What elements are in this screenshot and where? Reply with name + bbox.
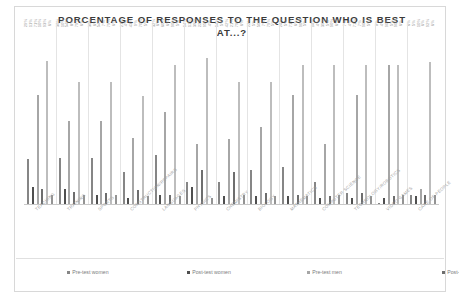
- bar: [287, 196, 289, 204]
- bar-value-label: 6%: [79, 20, 84, 26]
- bar-item: 5%: [177, 24, 182, 204]
- bar: [155, 155, 157, 204]
- bar-value-label: 4%: [207, 20, 212, 26]
- bar: [96, 195, 98, 204]
- plot-area: 29%11%71%10%93%6%30%10%54%8%79%6%30%6%54…: [24, 24, 439, 204]
- group-separator: [247, 24, 248, 205]
- bar-value-label: 5%: [270, 20, 275, 26]
- bar-item: 6%: [113, 24, 118, 204]
- bar: [260, 127, 262, 204]
- bar-value-label: 6%: [111, 20, 116, 26]
- group-separator: [375, 24, 376, 205]
- bar-value-label: 5%: [366, 20, 371, 26]
- bar: [196, 144, 198, 204]
- bar-value-label: 5%: [175, 20, 180, 26]
- bar: [415, 196, 417, 204]
- bar-group: 6%5%10%6%92%6%: [407, 24, 439, 204]
- bar: [356, 95, 358, 204]
- bar: [78, 82, 80, 204]
- bar: [223, 196, 225, 204]
- bar: [302, 65, 304, 204]
- group-separator: [152, 24, 153, 205]
- bar: [68, 121, 70, 204]
- bar-group: 14%5%42%21%79%6%: [216, 24, 248, 204]
- bar-item: 6%: [82, 24, 87, 204]
- bar: [365, 65, 367, 204]
- bar: [159, 195, 161, 204]
- bar: [429, 62, 431, 204]
- legend-item[interactable]: Post-test men: [442, 269, 459, 275]
- bar: [228, 139, 230, 204]
- legend-swatch-icon: [307, 271, 310, 274]
- bar: [191, 187, 193, 204]
- bar-item: 6%: [401, 24, 406, 204]
- bar-group: 29%11%71%10%93%6%: [24, 24, 56, 204]
- legend-swatch-icon: [187, 271, 190, 274]
- bar: [100, 121, 102, 204]
- bar-value-label: 90%: [384, 19, 389, 28]
- bar: [37, 95, 39, 204]
- group-separator: [343, 24, 344, 205]
- bar-group: 21%4%43%9%70%5%: [120, 24, 152, 204]
- legend-label: Post-test men: [447, 269, 459, 275]
- bar: [46, 61, 48, 204]
- bar-group: 14%11%39%22%95%4%: [184, 24, 216, 204]
- bar: [410, 195, 412, 204]
- bar-group: 24%5%71%6%90%5%: [279, 24, 311, 204]
- x-axis-tick-labels: TEACHINGTRAININGSPORTSCONSTRUCTION/REPAI…: [24, 206, 439, 256]
- bar-value-label: 6%: [293, 20, 298, 26]
- bar-item: 6%: [433, 24, 438, 204]
- bar: [123, 172, 125, 204]
- group-separator: [120, 24, 121, 205]
- bar: [333, 65, 335, 204]
- bar-item: 5%: [305, 24, 310, 204]
- bar-item: 5%: [145, 24, 150, 204]
- bar-group: 14%4%39%5%90%6%: [311, 24, 343, 204]
- legend-divider: [16, 258, 444, 259]
- bar: [91, 158, 93, 204]
- bar-item: 4%: [209, 24, 214, 204]
- bar-item: 6%: [337, 24, 342, 204]
- group-separator: [184, 24, 185, 205]
- bar-item: 5%: [273, 24, 278, 204]
- legend-swatch-icon: [442, 271, 445, 274]
- bar: [59, 158, 61, 204]
- bar: [270, 82, 272, 204]
- legend-item[interactable]: Pre-test women: [67, 269, 187, 275]
- group-separator: [56, 24, 57, 205]
- legend-label: Pre-test women: [72, 269, 108, 275]
- bar: [110, 82, 112, 204]
- bar: [142, 96, 144, 204]
- group-separator: [279, 24, 280, 205]
- bar: [292, 95, 294, 204]
- bar: [64, 189, 66, 204]
- bar-value-label: 6%: [47, 20, 52, 26]
- bar: [250, 170, 252, 204]
- bar: [218, 182, 220, 204]
- bar-item: 6%: [241, 24, 246, 204]
- bar: [174, 65, 176, 204]
- bar-value-label: 6%: [398, 20, 403, 26]
- bar: [397, 65, 399, 204]
- legend-item[interactable]: Pre-test men: [307, 269, 442, 275]
- bar-value-label: 6%: [239, 20, 244, 26]
- bar: [186, 182, 188, 204]
- bar-value-label: 71%: [352, 19, 357, 28]
- legend-item[interactable]: Post-test women: [187, 269, 307, 275]
- legend-label: Post-test women: [192, 269, 231, 275]
- bar-value-label: 5%: [143, 20, 148, 26]
- bar-value-label: 6%: [334, 20, 339, 26]
- bar: [132, 138, 134, 204]
- bar-item: 6%: [50, 24, 55, 204]
- bar-value-label: 6%: [430, 20, 435, 26]
- bar-value-label: 79%: [234, 19, 239, 28]
- bar-group: 30%10%54%8%79%6%: [56, 24, 88, 204]
- bar: [255, 196, 257, 204]
- bar: [206, 58, 208, 204]
- group-separator: [407, 24, 408, 205]
- bar: [164, 112, 166, 204]
- chart-container: PORCENTAGE OF RESPONSES TO THE QUESTION …: [14, 6, 446, 292]
- bar-value-label: 5%: [302, 20, 307, 26]
- bar-group: 30%6%54%7%79%6%: [88, 24, 120, 204]
- bar: [324, 144, 326, 204]
